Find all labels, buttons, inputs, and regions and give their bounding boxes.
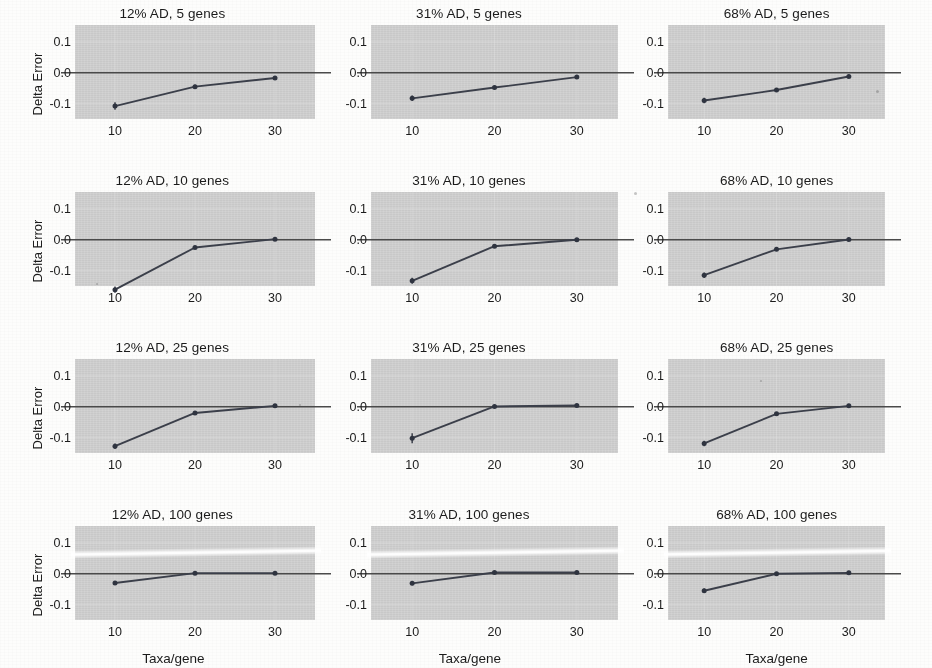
y-tick-label: -0.1 <box>49 598 71 612</box>
panel-68-ad-10-genes: 68% AD, 10 genes0.10.0-0.1102030 <box>621 167 932 334</box>
x-tick-label: 10 <box>108 124 122 138</box>
y-tick-label: 0.0 <box>350 400 367 414</box>
x-tick-label: 30 <box>570 124 584 138</box>
data-point <box>846 74 851 79</box>
y-tick-label: 0.0 <box>647 567 664 581</box>
y-axis-ticks: 0.10.0-0.1 <box>630 25 664 119</box>
x-axis-ticks: 102030 <box>371 456 618 474</box>
panel-12-ad-5-genes: 12% AD, 5 genesDelta Error0.10.0-0.11020… <box>0 0 311 167</box>
y-tick-label: 0.1 <box>647 369 664 383</box>
x-tick-label: 20 <box>770 291 784 305</box>
y-tick-label: -0.1 <box>345 97 367 111</box>
x-tick-label: 30 <box>842 124 856 138</box>
x-tick-label: 10 <box>405 124 419 138</box>
y-tick-label: 0.0 <box>647 400 664 414</box>
y-tick-label: 0.0 <box>350 66 367 80</box>
x-tick-label: 30 <box>268 291 282 305</box>
y-tick-label: 0.0 <box>54 66 71 80</box>
panel-12-ad-10-genes: 12% AD, 10 genesDelta Error0.10.0-0.1102… <box>0 167 311 334</box>
y-tick-label: -0.1 <box>49 264 71 278</box>
y-axis-ticks: 0.10.0-0.1 <box>333 25 367 119</box>
x-tick-label: 20 <box>188 625 202 639</box>
panel-title: 31% AD, 25 genes <box>311 340 622 355</box>
panel-68-ad-25-genes: 68% AD, 25 genes0.10.0-0.1102030 <box>621 334 932 501</box>
y-tick-label: 0.0 <box>647 233 664 247</box>
x-tick-label: 30 <box>842 291 856 305</box>
data-point <box>492 404 497 409</box>
y-axis-ticks: 0.10.0-0.1 <box>37 25 71 119</box>
x-tick-label: 10 <box>697 458 711 472</box>
panel-title: 12% AD, 100 genes <box>0 507 311 522</box>
data-point <box>273 571 278 576</box>
plot-area <box>75 25 315 119</box>
x-axis-ticks: 102030 <box>668 456 885 474</box>
y-tick-label: 0.0 <box>54 233 71 247</box>
x-tick-label: 20 <box>188 291 202 305</box>
x-tick-label: 20 <box>188 458 202 472</box>
data-point <box>410 436 415 441</box>
y-tick-label: -0.1 <box>345 598 367 612</box>
x-axis-title: Taxa/gene <box>311 651 622 666</box>
y-axis-ticks: 0.10.0-0.1 <box>630 359 664 453</box>
plot-area <box>371 25 618 119</box>
x-axis-ticks: 102030 <box>668 623 885 641</box>
y-tick-label: 0.1 <box>54 536 71 550</box>
x-axis-ticks: 102030 <box>75 623 315 641</box>
panel-title: 68% AD, 100 genes <box>621 507 932 522</box>
x-tick-label: 10 <box>697 124 711 138</box>
data-point <box>193 245 198 250</box>
x-tick-label: 30 <box>842 625 856 639</box>
y-axis-ticks: 0.10.0-0.1 <box>630 526 664 620</box>
x-tick-label: 10 <box>108 625 122 639</box>
y-tick-label: 0.0 <box>54 400 71 414</box>
y-axis-ticks: 0.10.0-0.1 <box>333 192 367 286</box>
panel-title: 68% AD, 5 genes <box>621 6 932 21</box>
data-point <box>113 444 118 449</box>
x-tick-label: 30 <box>570 458 584 472</box>
panel-68-ad-100-genes: 68% AD, 100 genesTaxa/gene0.10.0-0.11020… <box>621 501 932 668</box>
data-point <box>193 84 198 89</box>
y-tick-label: 0.1 <box>647 35 664 49</box>
y-tick-label: 0.1 <box>54 202 71 216</box>
y-tick-label: -0.1 <box>345 264 367 278</box>
data-point <box>702 441 707 446</box>
panel-title: 12% AD, 5 genes <box>0 6 311 21</box>
y-tick-label: 0.1 <box>647 202 664 216</box>
panel-title: 12% AD, 25 genes <box>0 340 311 355</box>
x-axis-ticks: 102030 <box>371 289 618 307</box>
y-tick-label: 0.1 <box>54 369 71 383</box>
data-point <box>574 570 579 575</box>
panel-title: 31% AD, 10 genes <box>311 173 622 188</box>
data-point <box>492 244 497 249</box>
data-point <box>193 410 198 415</box>
data-point <box>774 247 779 252</box>
x-tick-label: 30 <box>268 625 282 639</box>
x-axis-ticks: 102030 <box>668 289 885 307</box>
data-point <box>410 581 415 586</box>
x-tick-label: 10 <box>405 291 419 305</box>
plot-area <box>75 526 315 620</box>
x-tick-label: 20 <box>488 124 502 138</box>
y-tick-label: -0.1 <box>642 264 664 278</box>
x-tick-label: 30 <box>268 124 282 138</box>
y-tick-label: 0.1 <box>350 536 367 550</box>
y-tick-label: 0.0 <box>350 233 367 247</box>
x-tick-label: 30 <box>570 625 584 639</box>
x-tick-label: 10 <box>697 625 711 639</box>
data-point <box>410 278 415 283</box>
panel-12-ad-25-genes: 12% AD, 25 genesDelta Error0.10.0-0.1102… <box>0 334 311 501</box>
x-tick-label: 20 <box>770 458 784 472</box>
x-tick-label: 20 <box>770 124 784 138</box>
data-point <box>846 403 851 408</box>
data-point <box>113 581 118 586</box>
data-point <box>774 571 779 576</box>
panel-31-ad-25-genes: 31% AD, 25 genes0.10.0-0.1102030 <box>311 334 622 501</box>
panel-title: 68% AD, 25 genes <box>621 340 932 355</box>
y-tick-label: 0.0 <box>350 567 367 581</box>
y-axis-ticks: 0.10.0-0.1 <box>333 526 367 620</box>
y-tick-label: 0.1 <box>350 369 367 383</box>
x-tick-label: 20 <box>488 625 502 639</box>
x-tick-label: 30 <box>570 291 584 305</box>
x-tick-label: 10 <box>405 458 419 472</box>
data-point <box>774 411 779 416</box>
